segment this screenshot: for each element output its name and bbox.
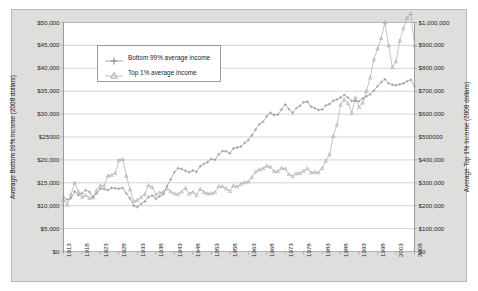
legend-label-top-1: Top 1% average income (128, 69, 197, 76)
x-axis-tick-label: 1973 (288, 243, 294, 257)
y-axis-left-tick-label: $10,000 (12, 203, 60, 209)
y-tick-marks-left (61, 23, 64, 252)
x-axis-tick-label: 1928 (121, 243, 127, 257)
x-axis-tick-label: 1953 (214, 243, 220, 257)
y-axis-right-tick-label: $800,000 (419, 65, 445, 71)
x-axis-tick-label: 1923 (103, 243, 109, 257)
y-axis-right-tick-label: $700,000 (419, 88, 445, 94)
y-axis-left-tick-label: $15,000 (12, 180, 60, 186)
y-axis-right-tick-label: $900,000 (419, 42, 445, 48)
y-axis-left-tick-label: $40,000 (12, 65, 60, 71)
y-axis-left-tick-label: $50,000 (12, 19, 60, 25)
x-axis-tick-label: 1933 (140, 243, 146, 257)
y-axis-left-tick-label: $35,000 (12, 88, 60, 94)
x-axis-tick-label: 1988 (343, 243, 349, 257)
y-axis-right-tick-label: $400,000 (419, 157, 445, 163)
x-axis-tick-label: 1918 (84, 243, 90, 257)
y-axis-left-tick-label: $25000 (12, 134, 60, 140)
x-axis-tick-label: 1993 (361, 243, 367, 257)
y-axis-left-tick-label: $20,000 (12, 157, 60, 163)
triangle-marker-icon (104, 67, 124, 77)
y-axis-left-title: Average Bottom 99% Income (2008 dollars) (9, 75, 16, 199)
x-axis-tick-label: 2003 (398, 243, 404, 257)
x-axis-tick-label: 1938 (158, 243, 164, 257)
y-axis-right-tick-label: $300,000 (419, 180, 445, 186)
x-axis-tick-label: 2008 (417, 243, 423, 257)
y-axis-left-tick-label: $5,000 (12, 225, 60, 231)
x-axis-tick-label: 1968 (269, 243, 275, 257)
y-axis-left-tick-label: $0 (12, 248, 60, 254)
y-tick-marks-right (415, 23, 418, 252)
x-axis-tick-label: 1948 (195, 243, 201, 257)
series-line-top-1-percent (62, 12, 416, 206)
series-line-bottom-99-percent (62, 78, 416, 209)
legend-item-bottom-99: Bottom 99% average income (104, 50, 210, 64)
x-axis-tick-label: 1978 (306, 243, 312, 257)
chart-container: $0$5,000$10,000$15,000$20,000$25000$30,0… (0, 0, 478, 291)
y-axis-left-tick-label: $30,000 (12, 111, 60, 117)
y-axis-right-title: Average Top 1% Income (2008 dollars) (463, 82, 470, 192)
x-axis-tick-label: 1943 (177, 243, 183, 257)
plus-marker-icon (104, 52, 124, 62)
x-axis-tick-label: 1998 (380, 243, 386, 257)
y-axis-right-tick-label: $500000 (419, 134, 443, 140)
legend-item-top-1: Top 1% average income (104, 65, 197, 79)
y-axis-left-tick-label: $45,000 (12, 42, 60, 48)
x-axis-tick-label: 1913 (66, 243, 72, 257)
x-axis-tick-label: 1958 (232, 243, 238, 257)
x-axis-tick-label: 1963 (251, 243, 257, 257)
y-axis-right-tick-label: $600,000 (419, 111, 445, 117)
y-axis-right-tick-label: $100,000 (419, 225, 445, 231)
chart-legend: Bottom 99% average income Top 1% average… (97, 45, 221, 82)
y-axis-right-tick-label: $200,000 (419, 203, 445, 209)
legend-label-bottom-99: Bottom 99% average income (128, 54, 210, 61)
y-axis-right-tick-label: $1,000,000 (419, 19, 450, 25)
x-axis-tick-label: 1983 (325, 243, 331, 257)
